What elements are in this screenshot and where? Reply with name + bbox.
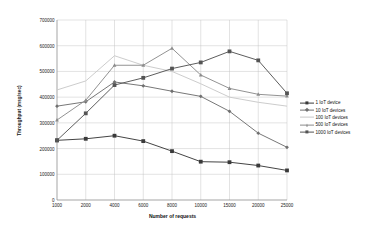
plot-svg bbox=[57, 20, 287, 200]
data-point bbox=[84, 137, 88, 141]
legend-label: 500 IoT devices bbox=[314, 122, 348, 127]
data-point bbox=[285, 91, 289, 95]
legend-item[interactable]: 100 IoT devices bbox=[300, 114, 382, 121]
plot-area: 0100000200000300000400000500000600000700… bbox=[57, 20, 287, 200]
data-point bbox=[141, 76, 145, 80]
y-axis-tick-label: 500000 bbox=[39, 69, 54, 74]
data-point bbox=[170, 149, 174, 153]
data-point bbox=[199, 61, 203, 65]
x-axis-tick-label: 20000 bbox=[252, 203, 265, 208]
data-point bbox=[113, 134, 117, 138]
data-point bbox=[199, 160, 203, 164]
x-axis-tick-label: 6000 bbox=[138, 203, 148, 208]
x-axis-tick-label: 4000 bbox=[109, 203, 119, 208]
y-axis-tick-label: 400000 bbox=[39, 95, 54, 100]
data-point bbox=[199, 94, 203, 98]
x-axis-tick-label: 1000 bbox=[52, 203, 62, 208]
data-point bbox=[84, 111, 88, 115]
y-axis-tick-label: 600000 bbox=[39, 43, 54, 48]
legend-marker-icon bbox=[300, 99, 314, 106]
data-point bbox=[170, 89, 174, 93]
legend-item[interactable]: 1 IoT device bbox=[300, 99, 382, 106]
x-axis-title: Number of requests bbox=[55, 213, 290, 219]
data-point bbox=[170, 67, 174, 71]
y-axis-tick-label: 0 bbox=[52, 198, 55, 203]
legend-marker-icon bbox=[300, 107, 314, 114]
legend-label: 1000 IoT devices bbox=[314, 130, 350, 135]
legend-item[interactable]: 10 IoT devices bbox=[300, 106, 382, 113]
y-axis-tick-label: 700000 bbox=[39, 18, 54, 23]
chart-legend: 1 IoT device10 IoT devices100 IoT device… bbox=[300, 99, 382, 136]
legend-label: 100 IoT devices bbox=[314, 115, 348, 120]
data-point bbox=[141, 139, 145, 143]
legend-marker-icon bbox=[300, 129, 314, 136]
data-point bbox=[55, 118, 59, 122]
y-axis-tick-label: 100000 bbox=[39, 172, 54, 177]
data-point bbox=[55, 138, 59, 142]
y-axis-tick-label: 300000 bbox=[39, 120, 54, 125]
legend-item[interactable]: 500 IoT devices bbox=[300, 121, 382, 128]
data-point bbox=[228, 49, 232, 53]
x-axis-tick-label: 2000 bbox=[81, 203, 91, 208]
data-point bbox=[285, 169, 289, 173]
data-point bbox=[55, 104, 59, 108]
x-axis-tick-label: 10000 bbox=[194, 203, 207, 208]
legend-label: 10 IoT devices bbox=[314, 108, 345, 113]
legend-item[interactable]: 1000 IoT devices bbox=[300, 129, 382, 136]
x-axis-tick-label: 25000 bbox=[281, 203, 294, 208]
x-axis-tick-label: 15000 bbox=[223, 203, 236, 208]
data-point bbox=[228, 160, 232, 164]
legend-marker-icon bbox=[300, 121, 314, 128]
legend-label: 1 IoT device bbox=[314, 100, 340, 105]
y-axis-tick-label: 200000 bbox=[39, 146, 54, 151]
data-point bbox=[256, 164, 260, 168]
y-axis-title: Throughput (msg/sec) bbox=[17, 56, 22, 166]
data-point bbox=[170, 46, 174, 50]
throughput-line-chart: Throughput (msg/sec) 0100000200000300000… bbox=[0, 0, 384, 239]
data-point bbox=[113, 83, 117, 87]
data-point bbox=[256, 58, 260, 62]
legend-marker-icon bbox=[300, 114, 314, 121]
data-point bbox=[141, 84, 145, 88]
x-axis-tick-label: 8000 bbox=[167, 203, 177, 208]
